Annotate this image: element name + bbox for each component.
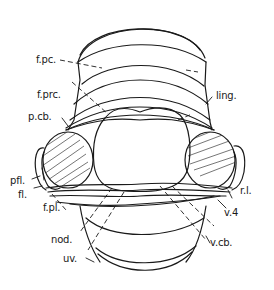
label-r-l: r.l. xyxy=(240,186,252,196)
label-v-4: v.4 xyxy=(224,208,238,218)
diagram-drawing xyxy=(0,0,274,290)
left-peduncle xyxy=(40,130,93,188)
label-ling: ling. xyxy=(216,91,236,101)
label-pfl: pfl. xyxy=(10,176,25,186)
label-v-cb: v.cb. xyxy=(210,238,232,248)
label-f-prc: f.prc. xyxy=(37,90,61,100)
label-f-pl: f.pl. xyxy=(43,203,60,213)
inferior-folia xyxy=(80,206,206,270)
left-flocculus xyxy=(35,148,60,190)
label-nod: nod. xyxy=(51,235,72,245)
label-uv: uv. xyxy=(63,254,77,264)
right-flocculus xyxy=(218,146,245,190)
label-p-cb: p.cb. xyxy=(28,112,52,122)
cerebellum-diagram: f.pc. f.prc. p.cb. ling. pfl. fl. f.pl. … xyxy=(0,0,274,290)
label-fl: fl. xyxy=(18,190,27,200)
label-f-pc: f.pc. xyxy=(36,55,56,65)
right-peduncle xyxy=(185,130,236,188)
anterior-folia xyxy=(66,29,214,130)
